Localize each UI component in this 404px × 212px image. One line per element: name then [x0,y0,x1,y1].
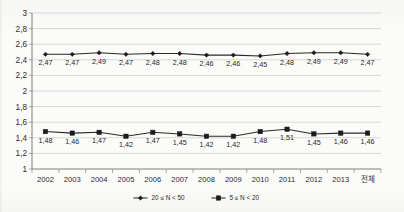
data-point-marker-square [97,130,101,134]
data-value-label: 2,49 [92,57,106,66]
x-axis-category-label: 2013 [332,175,349,184]
x-axis-category-label: 2012 [305,175,322,184]
data-point-marker-diamond [151,51,155,55]
data-value-label: 2,49 [307,57,321,66]
data-point-marker-diamond [285,51,289,55]
data-point-marker-diamond [204,53,208,57]
x-axis-category-labels: 2002200320042005200620072008200920102011… [37,174,375,184]
data-value-label: 2,46 [200,59,214,68]
x-axis-category-label: 2009 [225,175,242,184]
y-tick-label: 2,4 [16,56,28,65]
x-axis-category-label: 2008 [198,175,215,184]
y-tick-label: 2,8 [16,25,28,34]
data-value-label: 1,48 [253,136,267,145]
x-axis-category-label: 2003 [64,175,81,184]
data-point-marker-square [231,134,235,138]
legend-label: 20 ≤ N < 50 [152,194,186,201]
data-point-marker-square [204,134,208,138]
y-tick-label: 1,8 [16,103,28,112]
data-point-marker-diamond [312,51,316,55]
y-tick-label: 1,2 [16,149,28,158]
data-value-label: 2,47 [38,58,52,67]
y-tick-label: 3 [22,9,27,18]
data-value-label: 1,42 [119,140,133,149]
data-value-label: 1,51 [280,133,294,142]
data-point-marker-diamond [365,52,369,56]
y-tick-label: 2,2 [16,71,28,80]
data-value-label: 1,47 [92,136,106,145]
data-point-marker-diamond [97,51,101,55]
data-point-marker-square [124,134,128,138]
data-point-marker-diamond [138,196,142,200]
data-point-marker-diamond [258,54,262,58]
data-value-label: 2,48 [173,58,187,67]
data-point-marker-square [43,129,47,133]
data-value-label: 1,48 [38,136,52,145]
x-axis-category-label: 2004 [91,175,108,184]
x-axis-category-label: 2010 [252,175,269,184]
data-value-label: 2,48 [280,58,294,67]
data-point-marker-diamond [177,51,181,55]
data-value-label: 1,47 [146,136,160,145]
data-value-label: 2,47 [119,58,133,67]
data-value-label: 2,46 [226,59,240,68]
data-point-marker-square [70,131,74,135]
data-point-marker-square [216,196,220,200]
x-axis-category-label: 2002 [37,175,54,184]
y-tick-label: 2 [22,87,27,96]
data-value-label: 1,42 [226,140,240,149]
x-axis-category-label: 2007 [171,175,188,184]
legend-label: 5 ≤ N < 20 [230,194,260,201]
data-value-label: 1,46 [334,137,348,146]
data-point-marker-square [312,132,316,136]
line-chart: 11,21,41,61,822,22,42,62,83 200220032004… [0,0,404,212]
data-value-label: 2,47 [65,58,79,67]
data-value-label: 1,45 [307,138,321,147]
data-point-marker-diamond [124,52,128,56]
chart-canvas: 11,21,41,61,822,22,42,62,83 200220032004… [0,0,404,212]
data-value-label: 1,42 [200,140,214,149]
data-point-marker-square [258,129,262,133]
x-axis-category-label: 전체 [361,174,375,184]
data-value-label: 2,47 [361,58,375,67]
data-point-marker-diamond [339,51,343,55]
y-tick-label: 1,6 [16,118,28,127]
data-point-marker-square [151,130,155,134]
data-point-marker-diamond [43,52,47,56]
data-value-label: 2,48 [146,58,160,67]
data-value-label: 2,45 [253,60,267,69]
y-axis-tick-labels: 11,21,41,61,822,22,42,62,83 [16,9,28,174]
x-axis-category-label: 2011 [279,175,295,184]
x-axis-category-label: 2006 [144,175,161,184]
data-point-marker-square [285,127,289,131]
data-value-label: 1,45 [173,138,187,147]
data-point-marker-diamond [70,52,74,56]
data-point-marker-diamond [231,53,235,57]
data-point-marker-square [339,131,343,135]
y-tick-label: 1,4 [16,134,28,143]
y-tick-label: 2,6 [16,40,28,49]
x-tick-mark-group [32,169,381,173]
data-point-marker-square [365,131,369,135]
data-value-label: 1,46 [65,137,79,146]
data-point-marker-square [177,132,181,136]
y-tick-label: 1 [22,165,27,174]
data-value-label: 2,49 [334,57,348,66]
chart-legend: 20 ≤ N < 505 ≤ N < 20 [134,194,260,201]
x-axis-category-label: 2005 [118,175,135,184]
data-value-label: 1,46 [361,137,375,146]
